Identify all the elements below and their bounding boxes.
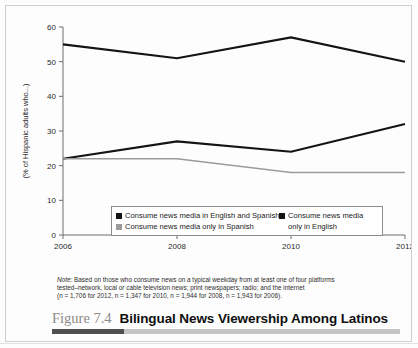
bottom-hairline	[0, 343, 418, 344]
x-tick-label: 2006	[54, 242, 72, 251]
y-tick-label: 60	[47, 23, 56, 32]
note-line-3: (n = 1,706 for 2012, n = 1,347 for 2010,…	[57, 292, 387, 300]
note-line-2: tested–network, local or cable televisio…	[57, 284, 387, 292]
legend-item-english-and-spanish[interactable]: Consume news media in English and Spanis…	[116, 210, 279, 221]
figure-title: Bilingual News Viewership Among Latinos	[120, 311, 388, 326]
y-tick-label: 10	[47, 196, 56, 205]
series-line	[63, 159, 405, 173]
y-axis-title: (% of Hispanic adults who...)	[21, 83, 30, 179]
x-tick-label: 2012	[396, 242, 411, 251]
x-tick-label: 2010	[282, 242, 300, 251]
figure-container: 0102030405060 2006200820102012 (% of His…	[0, 0, 418, 348]
legend-swatch-icon	[116, 213, 122, 219]
legend-item-label: Consume news media in English and Spanis…	[125, 210, 280, 221]
y-tick-label: 40	[47, 92, 56, 101]
legend-item-only-english[interactable]: Consume news media only in English	[279, 210, 378, 232]
y-axis-ticks: 0102030405060	[47, 23, 63, 240]
legend-column-left: Consume news media in English and Spanis…	[116, 210, 279, 232]
y-tick-label: 50	[47, 58, 56, 67]
series-line	[63, 124, 405, 159]
legend-swatch-icon	[116, 224, 122, 230]
caption-rule-dark	[52, 329, 124, 334]
caption-rule-light	[124, 329, 400, 334]
y-tick-label: 0	[52, 231, 57, 240]
legend-item-label: Consume news media only in English	[288, 210, 378, 232]
x-tick-label: 2008	[168, 242, 186, 251]
figure-number: Figure 7.4	[52, 310, 112, 327]
legend-item-only-spanish[interactable]: Consume news media only in Spanish	[116, 221, 279, 232]
legend-column-right: Consume news media only in English	[279, 210, 378, 232]
chart-legend: Consume news media in English and Spanis…	[111, 206, 383, 236]
note-line-1: Note: Based on those who consume news on…	[57, 276, 387, 284]
y-tick-label: 30	[47, 127, 56, 136]
note-label: Note:	[57, 276, 72, 283]
legend-swatch-icon	[279, 213, 285, 219]
note-text-1: Based on those who consume news on a typ…	[72, 276, 335, 283]
caption-rule	[52, 329, 400, 334]
series-line	[63, 37, 405, 61]
x-axis-ticks: 2006200820102012	[54, 235, 411, 251]
legend-item-label: Consume news media only in Spanish	[125, 221, 254, 232]
chart-note: Note: Based on those who consume news on…	[57, 276, 387, 301]
figure-caption: Figure 7.4 Bilingual News Viewership Amo…	[52, 310, 402, 327]
y-tick-label: 20	[47, 162, 56, 171]
series-lines	[63, 37, 405, 172]
